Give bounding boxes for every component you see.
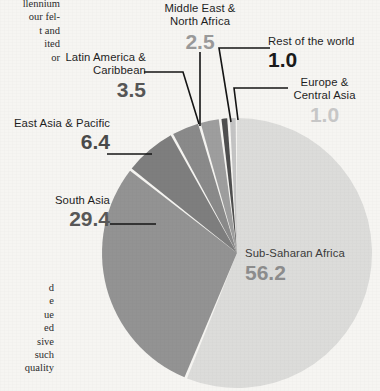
page-body-text-line: e [0, 294, 54, 307]
pie-label-middle-east-north-africa: Middle East &North Africa 2.5 [138, 2, 262, 52]
leader-line-rest-world [219, 48, 270, 122]
page-body-text-line: t and [0, 24, 60, 37]
pie-label-rest-of-the-world: Rest of the world 1.0 [268, 35, 380, 70]
pie-chart-figure: llenniumour fel-t anditedor deueedsivesu… [0, 0, 380, 391]
page-body-text-line: such [0, 348, 54, 361]
pie-value-south-asia: 29.4 [14, 208, 110, 229]
pie-label-middle-east-north-africa-text: Middle East &North Africa [138, 2, 262, 28]
pie-label-south-asia: South Asia 29.4 [14, 194, 110, 229]
pie-value-rest-of-the-world: 1.0 [268, 49, 380, 70]
page-body-text-line: ue [0, 308, 54, 321]
page-body-text-line: sive [0, 335, 54, 348]
pie-label-east-asia-pacific: East Asia & Pacific 6.4 [0, 117, 110, 152]
pie-value-europe-central-asia: 1.0 [272, 104, 377, 125]
page-body-text-line: llennium [0, 0, 60, 10]
pie-label-europe-central-asia: Europe &Central Asia 1.0 [272, 76, 377, 125]
page-body-text-bottom: deueedsivesuchquality [0, 281, 54, 375]
pie-value-latin-america-caribbean: 3.5 [34, 79, 146, 100]
pie-value-middle-east-north-africa: 2.5 [138, 31, 262, 52]
pie-label-sub-saharan-africa: Sub-Saharan Africa 56.2 [245, 247, 373, 283]
pie-value-sub-saharan-africa: 56.2 [245, 262, 373, 283]
page-body-text-line: ited [0, 37, 60, 50]
pie-label-latin-america-caribbean-text: Latin America &Caribbean [34, 51, 146, 77]
pie-label-south-asia-text: South Asia [14, 194, 110, 207]
page-body-text-line: ed [0, 321, 54, 334]
pie-value-east-asia-pacific: 6.4 [0, 131, 110, 152]
leader-line-latin-america [144, 72, 199, 124]
page-body-text-line: d [0, 281, 54, 294]
pie-label-europe-central-asia-text: Europe &Central Asia [272, 76, 377, 102]
pie-label-sub-saharan-africa-text: Sub-Saharan Africa [245, 247, 373, 260]
page-body-text-line: quality [0, 361, 54, 374]
pie-label-east-asia-pacific-text: East Asia & Pacific [0, 117, 110, 130]
pie-label-latin-america-caribbean: Latin America &Caribbean 3.5 [34, 51, 146, 100]
page-body-text-line: our fel- [0, 10, 60, 23]
pie-label-rest-of-the-world-text: Rest of the world [268, 35, 380, 48]
